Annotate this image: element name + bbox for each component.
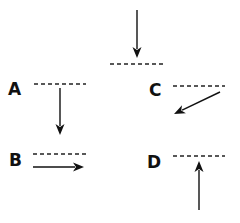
option-b: B	[9, 150, 86, 172]
incident-group	[110, 10, 163, 64]
arrow-down-left-icon	[182, 92, 220, 110]
option-label: B	[9, 150, 22, 170]
option-label: A	[8, 79, 22, 99]
arrow-diagram: A B C D	[0, 0, 240, 223]
option-d: D	[147, 152, 225, 210]
option-a: A	[8, 79, 86, 135]
option-label: C	[149, 80, 161, 100]
option-c: C	[149, 80, 225, 114]
option-label: D	[147, 152, 161, 172]
diagram-canvas: A B C D	[0, 0, 240, 223]
